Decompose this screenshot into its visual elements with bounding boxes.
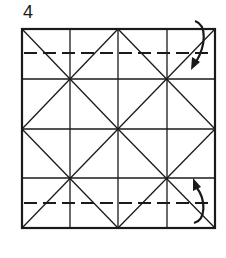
fold-up-arrow-icon <box>194 188 203 223</box>
fold-down-arrow-icon <box>195 21 204 62</box>
crease-pattern-diagram <box>0 0 226 258</box>
